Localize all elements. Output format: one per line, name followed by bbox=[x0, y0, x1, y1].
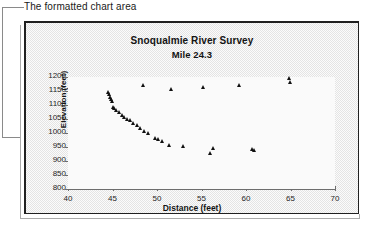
y-axis-tick-label: 1150 bbox=[49, 85, 66, 94]
data-point-marker bbox=[252, 148, 256, 152]
y-axis-tick-label: 800 bbox=[53, 183, 66, 192]
data-point-marker bbox=[146, 131, 150, 135]
data-point-marker bbox=[169, 87, 173, 91]
data-point-marker bbox=[201, 85, 205, 89]
data-point-marker bbox=[288, 80, 292, 84]
data-point-marker bbox=[237, 83, 241, 87]
data-point-marker bbox=[208, 151, 212, 155]
y-axis-tick-label: 1000 bbox=[48, 127, 66, 136]
data-point-marker bbox=[160, 139, 164, 143]
chart-frame-shadow-bottom bbox=[22, 214, 360, 219]
x-axis-tick-label: 55 bbox=[192, 194, 212, 203]
chart-title: Snoqualmie River Survey bbox=[26, 35, 358, 46]
y-axis-tick-label: 1050 bbox=[48, 113, 66, 122]
x-axis-tick-label: 60 bbox=[236, 194, 256, 203]
chart-subtitle: Mile 24.3 bbox=[26, 49, 358, 60]
x-axis-tick-label: 40 bbox=[58, 194, 78, 203]
data-point-marker bbox=[167, 143, 171, 147]
chart-area[interactable]: Snoqualmie River Survey Mile 24.3 Elevat… bbox=[24, 21, 359, 214]
data-point-marker bbox=[181, 144, 185, 148]
x-axis-tick-mark bbox=[335, 186, 336, 191]
y-axis-tick-label: 950 bbox=[53, 141, 66, 150]
callout-label: The formatted chart area bbox=[24, 1, 136, 12]
x-axis-title: Distance (feet) bbox=[26, 203, 358, 213]
x-axis-tick-label: 70 bbox=[325, 194, 345, 203]
x-axis-tick-label: 65 bbox=[281, 194, 301, 203]
data-point-marker bbox=[110, 99, 114, 103]
y-axis-tick-label: 900 bbox=[53, 155, 66, 164]
y-axis-tick-label: 850 bbox=[53, 169, 66, 178]
x-axis-tick-label: 50 bbox=[147, 194, 167, 203]
data-point-marker bbox=[141, 83, 145, 87]
x-axis-tick-label: 45 bbox=[103, 194, 123, 203]
y-axis-tick-label: 1200 bbox=[48, 71, 66, 80]
data-point-marker bbox=[211, 146, 215, 150]
y-axis-tick-label: 1100 bbox=[49, 99, 66, 108]
